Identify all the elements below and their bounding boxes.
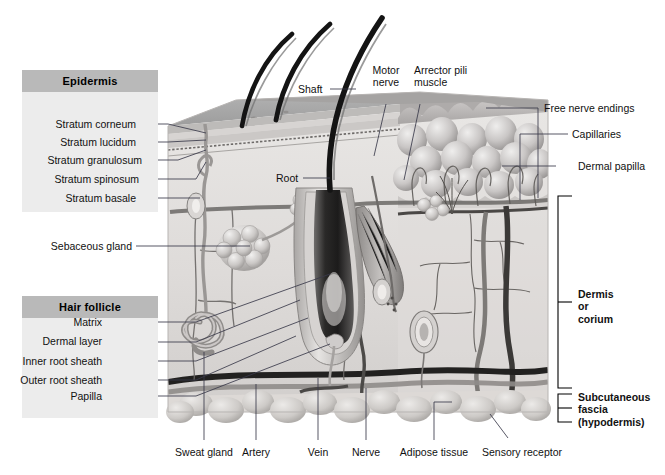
label-adipose-tissue: Adipose tissue — [386, 446, 482, 458]
panel-header-hair-follicle-label: Hair follicle — [59, 301, 121, 313]
label-stratum-granulosum: Stratum granulosum — [0, 154, 142, 166]
label-dermis-or-corium: Dermis or corium — [578, 288, 614, 325]
tactile-corpuscle-left — [187, 193, 205, 219]
panel-header-epidermis: Epidermis — [22, 70, 158, 92]
label-stratum-basale: Stratum basale — [0, 192, 136, 204]
panel-body-hair-follicle — [22, 318, 158, 418]
label-arrector-pili-muscle: Arrector pili muscle — [414, 64, 467, 89]
label-sensory-receptor: Sensory receptor — [470, 446, 574, 458]
label-stratum-spinosum: Stratum spinosum — [0, 173, 139, 185]
label-dermal-layer: Dermal layer — [0, 335, 102, 347]
label-stratum-corneum: Stratum corneum — [0, 118, 136, 130]
label-motor-nerve: Motor nerve — [360, 64, 412, 89]
bracket-dermis — [558, 196, 572, 388]
label-capillaries: Capillaries — [572, 128, 621, 140]
skin-anatomy-figure: Epidermis Hair follicle Stratum corneum … — [0, 0, 665, 475]
label-outer-root-sheath: Outer root sheath — [0, 374, 102, 386]
label-nerve: Nerve — [342, 446, 390, 458]
label-inner-root-sheath: Inner root sheath — [0, 355, 102, 367]
label-stratum-lucidum: Stratum lucidum — [0, 136, 136, 148]
label-root: Root — [276, 172, 298, 184]
label-shaft: Shaft — [298, 83, 323, 95]
label-vein: Vein — [294, 446, 342, 458]
label-matrix: Matrix — [0, 316, 102, 328]
label-dermal-papilla: Dermal papilla — [578, 160, 645, 172]
label-artery: Artery — [228, 446, 284, 458]
panel-header-epidermis-label: Epidermis — [63, 75, 118, 87]
label-subcutaneous-fascia: Subcutaneous fascia (hypodermis) — [578, 391, 650, 428]
bracket-hypodermis — [558, 394, 572, 422]
label-sebaceous-gland: Sebaceous gland — [0, 240, 132, 252]
skin-block — [166, 92, 553, 423]
label-free-nerve-endings: Free nerve endings — [544, 102, 634, 114]
sensory-receptor-small — [373, 279, 391, 305]
panel-header-hair-follicle: Hair follicle — [22, 296, 158, 318]
label-papilla: Papilla — [0, 390, 102, 402]
